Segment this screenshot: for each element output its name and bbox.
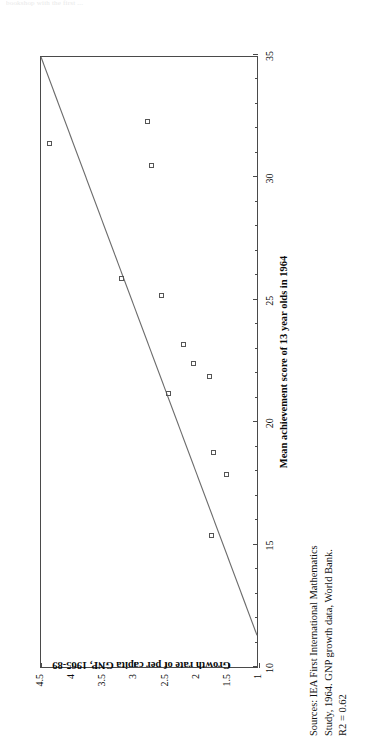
x-axis-minor-tick [255, 446, 258, 447]
data-point-marker [47, 141, 52, 146]
x-axis-minor-tick [255, 397, 258, 398]
x-axis-minor-tick [255, 470, 258, 471]
sources-line-1: Sources: IEA First International Mathema… [307, 486, 322, 736]
x-axis-minor-tick [255, 519, 258, 520]
x-axis-tick [253, 544, 258, 545]
scatter-chart-figure: Mean achievement score of 13 year olds i… [12, 18, 300, 680]
x-axis-minor-tick [255, 568, 258, 569]
x-axis-minor-tick [255, 372, 258, 373]
sources-line-2: Study, 1964. GNP growth data, World Bank… [322, 486, 337, 736]
x-axis-tick [253, 54, 258, 55]
x-axis-tick [253, 666, 258, 667]
x-axis-tick [253, 176, 258, 177]
x-axis-tick-label: 35 [264, 43, 275, 69]
x-axis-tick-label: 10 [264, 655, 275, 681]
x-axis-tick [253, 299, 258, 300]
x-axis-tick-label: 20 [264, 410, 275, 436]
x-axis-minor-tick [255, 495, 258, 496]
data-point-marker [209, 533, 214, 538]
x-axis-minor-tick [255, 201, 258, 202]
y-axis-tick-label: 2 [190, 674, 201, 704]
sources-note: Sources: IEA First International Mathema… [307, 486, 353, 736]
x-axis-minor-tick [255, 274, 258, 275]
x-axis-minor-tick [255, 617, 258, 618]
x-axis-minor-tick [255, 127, 258, 128]
x-axis-minor-tick [255, 323, 258, 324]
x-axis-tick [253, 421, 258, 422]
data-point-marker [207, 374, 212, 379]
data-point-marker [224, 472, 229, 477]
x-axis-minor-tick [255, 103, 258, 104]
sources-line-3: R2 = 0.62 [336, 486, 351, 736]
data-point-marker [149, 163, 154, 168]
data-point-marker [159, 293, 164, 298]
x-axis-minor-tick [255, 250, 258, 251]
x-axis-tick-label: 30 [264, 165, 275, 191]
y-axis-tick-label: 3 [127, 674, 138, 704]
data-point-marker [166, 391, 171, 396]
y-axis-tick-label: 4 [65, 674, 76, 704]
regression-line [41, 57, 257, 667]
x-axis-minor-tick [255, 78, 258, 79]
x-axis-minor-tick [255, 152, 258, 153]
plot-area [40, 56, 258, 668]
y-axis-tick-label: 1.5 [221, 674, 232, 704]
x-axis-minor-tick [255, 642, 258, 643]
y-axis-title: Growth rate of per capita GNP, 1965-89 [33, 660, 251, 671]
y-axis-tick-label: 3.5 [96, 674, 107, 704]
data-point-marker [119, 276, 124, 281]
x-axis-tick-label: 25 [264, 288, 275, 314]
x-axis-minor-tick [255, 348, 258, 349]
clipped-page-header: bookshop with the first ... [6, 0, 116, 7]
data-point-marker [181, 342, 186, 347]
data-point-marker [191, 361, 196, 366]
y-axis-tick-label: 1 [252, 674, 263, 704]
data-point-marker [211, 450, 216, 455]
x-axis-minor-tick [255, 593, 258, 594]
x-axis-minor-tick [255, 225, 258, 226]
x-axis-title: Mean achievement score of 13 year olds i… [278, 56, 289, 668]
data-point-marker [145, 119, 150, 124]
y-axis-tick-label: 4.5 [34, 674, 45, 704]
y-axis-tick [259, 663, 260, 668]
y-axis-tick-label: 2.5 [159, 674, 170, 704]
x-axis-tick-label: 15 [264, 533, 275, 559]
